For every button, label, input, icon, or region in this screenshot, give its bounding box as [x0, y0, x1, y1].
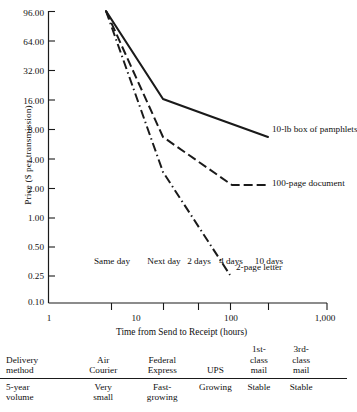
chart-figure: Price ($ per transmission) 96.00 64.00 3… [0, 0, 347, 340]
series-label-document: 100-page document [272, 178, 345, 189]
x-axis-title: Time from Send to Receipt (hours) [116, 327, 247, 337]
cell-method-third-class-mail: 3rd- class mail [280, 344, 323, 378]
cell-volume-air-courier: Very small [75, 378, 132, 403]
cell-volume-ups: Growing [193, 378, 239, 403]
table-spacer [323, 344, 347, 378]
series-line-pamphlets [106, 11, 268, 137]
table-row-delivery-method: Delivery method Air Courier Federal Expr… [0, 344, 347, 378]
row-header-delivery-method: Delivery method [0, 344, 75, 378]
x-tick-marks [112, 303, 328, 310]
row-header-five-year-volume: 5-year volume [0, 378, 75, 403]
cell-volume-first-class-mail: Stable [238, 378, 279, 403]
series-line-document [106, 11, 268, 185]
y-tick-marks [49, 12, 56, 277]
x-tick-label-100: 100 [216, 313, 246, 323]
table-spacer-2 [323, 378, 347, 403]
x-tick-label-10: 10 [124, 313, 148, 323]
x-tick-label-1000: 1,000 [306, 313, 344, 323]
chart-plot-svg [0, 0, 347, 340]
series-label-pamphlets: 10-lb box of pamphlets [272, 124, 357, 135]
delivery-method-table: Delivery method Air Courier Federal Expr… [0, 344, 347, 412]
x-cat-label-same-day: Same day [92, 256, 132, 267]
x-tick-label-1: 1 [38, 313, 60, 323]
cell-method-ups: UPS [193, 344, 239, 378]
x-cat-label-4-days: 4 days [212, 256, 250, 267]
table-row-five-year-volume: 5-year volume Very small Fast- growing G… [0, 378, 347, 403]
cell-method-air-courier: Air Courier [75, 344, 132, 378]
x-cat-label-next-day: Next day [144, 256, 184, 267]
cell-volume-third-class-mail: Stable [280, 378, 323, 403]
cell-method-first-class-mail: 1st- class mail [238, 344, 279, 378]
cell-volume-federal-express: Fast- growing [132, 378, 193, 403]
cell-method-federal-express: Federal Express [132, 344, 193, 378]
x-cat-label-10-days: 10 days [249, 256, 289, 267]
